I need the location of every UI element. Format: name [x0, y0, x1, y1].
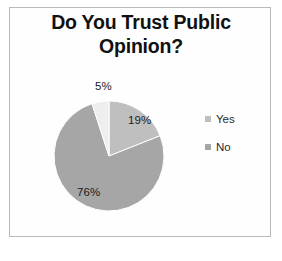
- legend-item-yes[interactable]: Yes: [205, 112, 267, 126]
- pie-data-label-no: 76%: [77, 186, 100, 198]
- pie-data-label-yes: 19%: [128, 114, 151, 126]
- chart-legend: Yes No: [205, 112, 267, 168]
- pie-chart-figure: Do You Trust Public Opinion? 19% 76% 5% …: [0, 0, 282, 261]
- chart-title-line-2: Opinion?: [12, 34, 270, 58]
- legend-swatch-no: [205, 144, 211, 150]
- pie-data-label-other: 5%: [95, 80, 112, 92]
- page-margin: [0, 239, 282, 261]
- legend-label-no: No: [216, 140, 231, 154]
- pie-plot-area: [50, 94, 170, 218]
- chart-title: Do You Trust Public Opinion?: [12, 10, 270, 58]
- legend-item-no[interactable]: No: [205, 140, 267, 154]
- legend-swatch-yes: [205, 116, 211, 122]
- chart-title-line-1: Do You Trust Public: [12, 10, 270, 34]
- pie-svg: [50, 94, 170, 218]
- legend-label-yes: Yes: [216, 112, 235, 126]
